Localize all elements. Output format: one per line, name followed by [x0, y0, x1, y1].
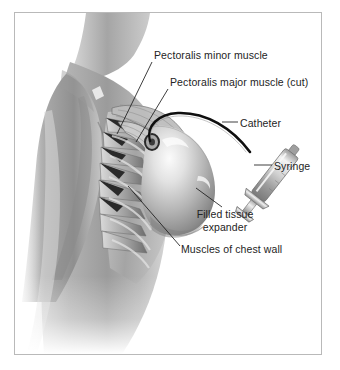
- label-muscles-of-chest-wall: Muscles of chest wall: [181, 243, 282, 256]
- label-expander-line1: Filled tissue: [197, 208, 254, 220]
- label-pectoralis-major-muscle-cut: Pectoralis major muscle (cut): [170, 76, 308, 89]
- syringe-barrel: [251, 148, 299, 203]
- label-syringe: Syringe: [274, 160, 310, 173]
- label-pectoralis-minor-muscle: Pectoralis minor muscle: [154, 49, 268, 62]
- label-expander-line2: expander: [203, 221, 248, 233]
- left-fade: [15, 13, 41, 354]
- illustration-figure: Pectoralis minor muscle Pectoralis major…: [0, 0, 340, 370]
- bottom-fade: [15, 276, 321, 354]
- label-filled-tissue-expander: Filled tissue expander: [192, 208, 258, 233]
- label-catheter: Catheter: [240, 117, 281, 130]
